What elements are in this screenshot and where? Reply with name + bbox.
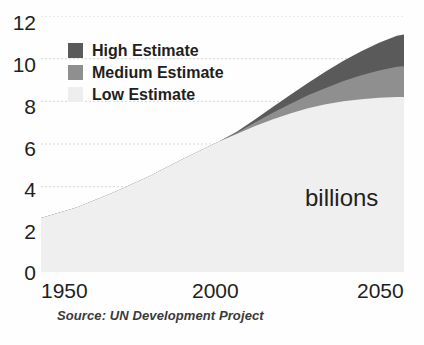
x-tick-2050: 2050	[357, 280, 404, 301]
legend-item-medium[interactable]: Medium Estimate	[68, 62, 224, 83]
legend-item-high[interactable]: High Estimate	[68, 40, 224, 61]
legend-item-low[interactable]: Low Estimate	[68, 84, 224, 105]
x-tick-2000: 2000	[192, 280, 239, 301]
y-tick-6: 6	[2, 138, 36, 159]
source-note: Source: UN Development Project	[57, 308, 264, 323]
billions-annotation: billions	[305, 184, 378, 212]
legend-swatch-low	[68, 87, 83, 102]
x-tick-1950: 1950	[41, 280, 88, 301]
y-tick-8: 8	[2, 96, 36, 117]
y-tick-2: 2	[2, 221, 36, 242]
legend: High Estimate Medium Estimate Low Estima…	[68, 40, 224, 106]
y-tick-12: 12	[2, 12, 36, 33]
legend-label-low: Low Estimate	[92, 87, 195, 103]
y-tick-4: 4	[2, 179, 36, 200]
legend-swatch-medium	[68, 65, 83, 80]
legend-label-medium: Medium Estimate	[92, 65, 224, 81]
y-tick-10: 10	[2, 54, 36, 75]
population-projection-chart: 12 10 8 6 4 2 0 1950 2000 2050 High Esti…	[0, 0, 424, 345]
legend-label-high: High Estimate	[92, 43, 199, 59]
legend-swatch-high	[68, 43, 83, 58]
y-tick-0: 0	[2, 262, 36, 283]
